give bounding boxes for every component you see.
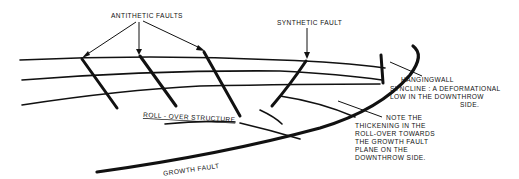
svg-text:THE GROWTH FAULT: THE GROWTH FAULT bbox=[355, 138, 428, 145]
svg-text:NOTE THE: NOTE THE bbox=[386, 114, 423, 121]
hangingwall-fault-line bbox=[381, 55, 383, 83]
synthetic-leader bbox=[304, 28, 310, 59]
antithetic-leaders bbox=[82, 21, 205, 58]
bed-5 bbox=[280, 96, 355, 117]
bed-1 bbox=[20, 57, 385, 68]
svg-text:DOWNTHROW SIDE.: DOWNTHROW SIDE. bbox=[355, 154, 426, 161]
label-thickening-note: NOTE THE THICKENING IN THE ROLL-OVER TOW… bbox=[355, 114, 435, 161]
bed-6 bbox=[260, 110, 282, 124]
label-growth-fault: GROWTH FAULT bbox=[163, 162, 220, 177]
svg-text:HANGINGWALL: HANGINGWALL bbox=[401, 76, 454, 83]
antithetic-fault-1 bbox=[82, 59, 117, 108]
label-antithetic-faults: ANTITHETIC FAULTS bbox=[111, 12, 183, 19]
antithetic-fault-2 bbox=[140, 56, 176, 106]
svg-text:LOW IN THE DOWNTHROW: LOW IN THE DOWNTHROW bbox=[390, 93, 484, 100]
svg-text:SYNCLINE : A DEFORMATIONAL: SYNCLINE : A DEFORMATIONAL bbox=[390, 85, 501, 92]
bed-2 bbox=[22, 71, 382, 80]
label-synthetic-fault: SYNTHETIC FAULT bbox=[277, 19, 342, 26]
svg-text:PLANE ON THE: PLANE ON THE bbox=[355, 146, 408, 153]
label-hangingwall-syncline: HANGINGWALL SYNCLINE : A DEFORMATIONAL L… bbox=[390, 76, 501, 108]
svg-text:THICKENING IN THE: THICKENING IN THE bbox=[355, 122, 426, 129]
svg-text:SIDE.: SIDE. bbox=[460, 101, 479, 108]
antithetic-fault-3 bbox=[204, 52, 240, 116]
label-roll-over-structure: ROLL - OVER STRUCTURE bbox=[143, 111, 236, 123]
svg-text:ROLL-OVER TOWARDS: ROLL-OVER TOWARDS bbox=[355, 130, 435, 137]
growth-fault-diagram: ANTITHETIC FAULTS SYNTHETIC FAULT ROLL -… bbox=[0, 0, 519, 179]
bedding-planes bbox=[20, 57, 385, 139]
antithetic-faults bbox=[82, 52, 240, 116]
bed-3 bbox=[22, 84, 380, 105]
